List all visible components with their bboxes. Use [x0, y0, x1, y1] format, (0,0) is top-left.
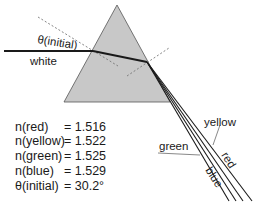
table-row-name: n(yellow) — [15, 134, 65, 148]
blue-label: blue — [203, 165, 225, 190]
refractive-index-table: n(red) = 1.516 n(yellow) = 1.522 n(green… — [15, 120, 106, 193]
table-row-name: n(green) — [15, 149, 62, 163]
yellow-leader-line — [213, 125, 220, 145]
angle-label: θ(initial) — [37, 33, 79, 51]
yellow-ray — [147, 62, 243, 201]
table-row-value: = 30.2° — [64, 179, 104, 193]
yellow-label: yellow — [204, 116, 237, 128]
table-row-value: = 1.522 — [64, 134, 106, 148]
green-leader-line — [158, 153, 200, 155]
table-row-value: = 1.529 — [64, 164, 106, 178]
red-ray — [147, 62, 252, 201]
table-row-name: n(blue) — [15, 164, 54, 178]
table-row-value: = 1.525 — [64, 149, 106, 163]
green-label: green — [159, 140, 188, 152]
red-label: red — [219, 150, 238, 170]
table-row-value: = 1.516 — [64, 120, 106, 134]
prism — [64, 5, 170, 102]
table-row-name: θ(initial) — [15, 179, 59, 193]
prism-dispersion-diagram: θ(initial) white yellow green red blue n… — [0, 0, 255, 207]
white-label: white — [29, 55, 57, 67]
table-row-name: n(red) — [15, 120, 48, 134]
